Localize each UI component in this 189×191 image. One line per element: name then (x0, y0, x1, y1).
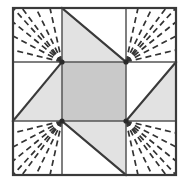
seam-intersection-dot (59, 59, 64, 64)
patch-center-square (62, 62, 126, 121)
seam-intersection-dot (123, 59, 128, 64)
quilt-block-canvas (0, 0, 189, 191)
seam-intersection-dot (123, 118, 128, 123)
seam-intersection-dot (59, 118, 64, 123)
quilt-block-diagram (0, 0, 189, 191)
